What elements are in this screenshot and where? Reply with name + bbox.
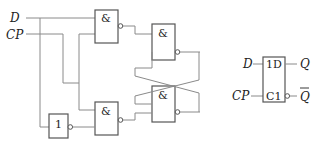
pin-1d: 1D — [266, 58, 282, 71]
input-label-d: D — [9, 11, 20, 25]
symbol-input-cp: CP — [232, 89, 250, 103]
gate-symbol: 1 — [55, 118, 62, 131]
symbol-output-qbar: Q — [300, 90, 310, 104]
symbol-input-d: D — [242, 57, 253, 71]
not-gate: 1 — [49, 114, 73, 138]
inversion-bubble-icon — [175, 50, 180, 55]
nand-gate-4: & — [95, 102, 123, 135]
inversion-bubble-icon — [68, 125, 73, 130]
gate-symbol: & — [101, 105, 111, 118]
d-latch-symbol: D CP 1D C1 Q Q — [232, 57, 310, 104]
nand-gate-3: & — [152, 86, 180, 122]
inversion-bubble-icon — [175, 110, 180, 115]
inversion-bubble-icon — [118, 24, 123, 29]
inversion-bubble-icon — [118, 118, 123, 123]
inversion-bubble-icon — [285, 94, 290, 99]
nand-gate-1: & — [95, 10, 123, 43]
symbol-output-q: Q — [300, 57, 310, 71]
d-latch-diagram: D CP & & & — [0, 0, 318, 151]
gate-symbol: & — [101, 12, 111, 25]
wire-g4-g3 — [123, 113, 152, 120]
nand-gate-2: & — [152, 24, 180, 60]
wire-g1-g2 — [123, 26, 152, 34]
wire-cp — [26, 34, 95, 110]
gate-symbol: & — [158, 89, 168, 102]
gate-symbol: & — [158, 27, 168, 40]
pin-c1: C1 — [266, 90, 281, 103]
input-label-cp: CP — [6, 28, 24, 42]
